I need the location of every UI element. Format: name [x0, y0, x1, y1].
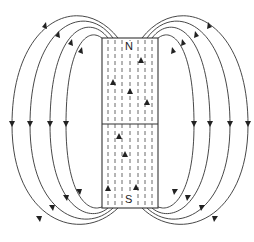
field-lines-svg: [0, 0, 254, 242]
north-pole-label: N: [124, 41, 134, 52]
south-pole-label: S: [124, 194, 133, 205]
bar-magnet-diagram: N S: [0, 0, 254, 242]
left-arrows: [9, 22, 83, 222]
